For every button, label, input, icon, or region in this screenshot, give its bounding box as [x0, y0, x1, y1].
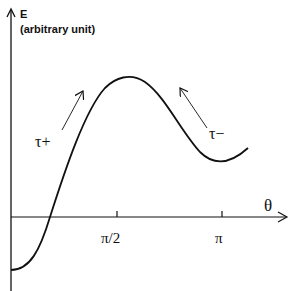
- x-axis: [11, 211, 287, 222]
- tau-plus-label: τ+: [35, 133, 50, 151]
- energy-curve: [11, 77, 248, 270]
- tau-minus-label: τ−: [209, 125, 224, 143]
- tick-label-pi: π: [215, 230, 223, 247]
- y-axis: [7, 9, 15, 291]
- y-axis-sublabel: (arbitrary unit): [20, 23, 95, 35]
- y-axis-label: E: [20, 8, 27, 20]
- tau-plus-arrow-icon: [62, 91, 83, 130]
- x-axis-label: θ: [264, 196, 272, 216]
- tick-label-pi-half: π/2: [101, 230, 120, 247]
- tau-minus-arrow-icon: [180, 88, 207, 128]
